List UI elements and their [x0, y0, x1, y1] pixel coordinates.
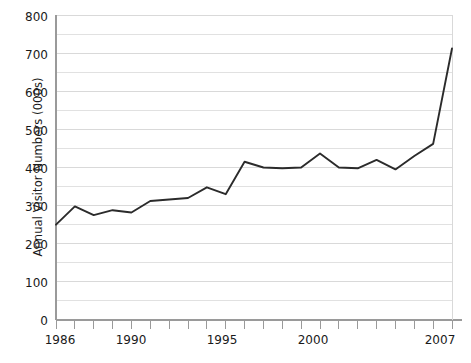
data-series-line [56, 49, 452, 225]
x-axis-tick-marks [56, 320, 452, 329]
plot-area [0, 0, 471, 363]
visitor-numbers-line-chart: Annual Visitor Numbers (000s) 800 700 60… [0, 0, 471, 363]
